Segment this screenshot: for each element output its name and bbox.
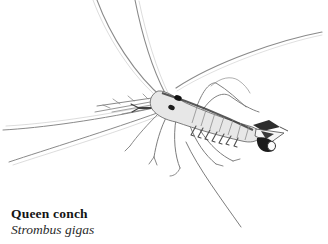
- scientific-name: Strombus gigas: [11, 222, 94, 237]
- field-guide-page: Queen conch Strombus gigas: [0, 0, 328, 244]
- body: [150, 91, 260, 142]
- telson-spot: [268, 141, 276, 150]
- body-outline: [150, 91, 260, 142]
- upper-legs: [197, 78, 259, 112]
- tail-fan: [253, 120, 288, 152]
- common-name: Queen conch: [11, 206, 94, 221]
- caption: Queen conch Strombus gigas: [11, 206, 94, 237]
